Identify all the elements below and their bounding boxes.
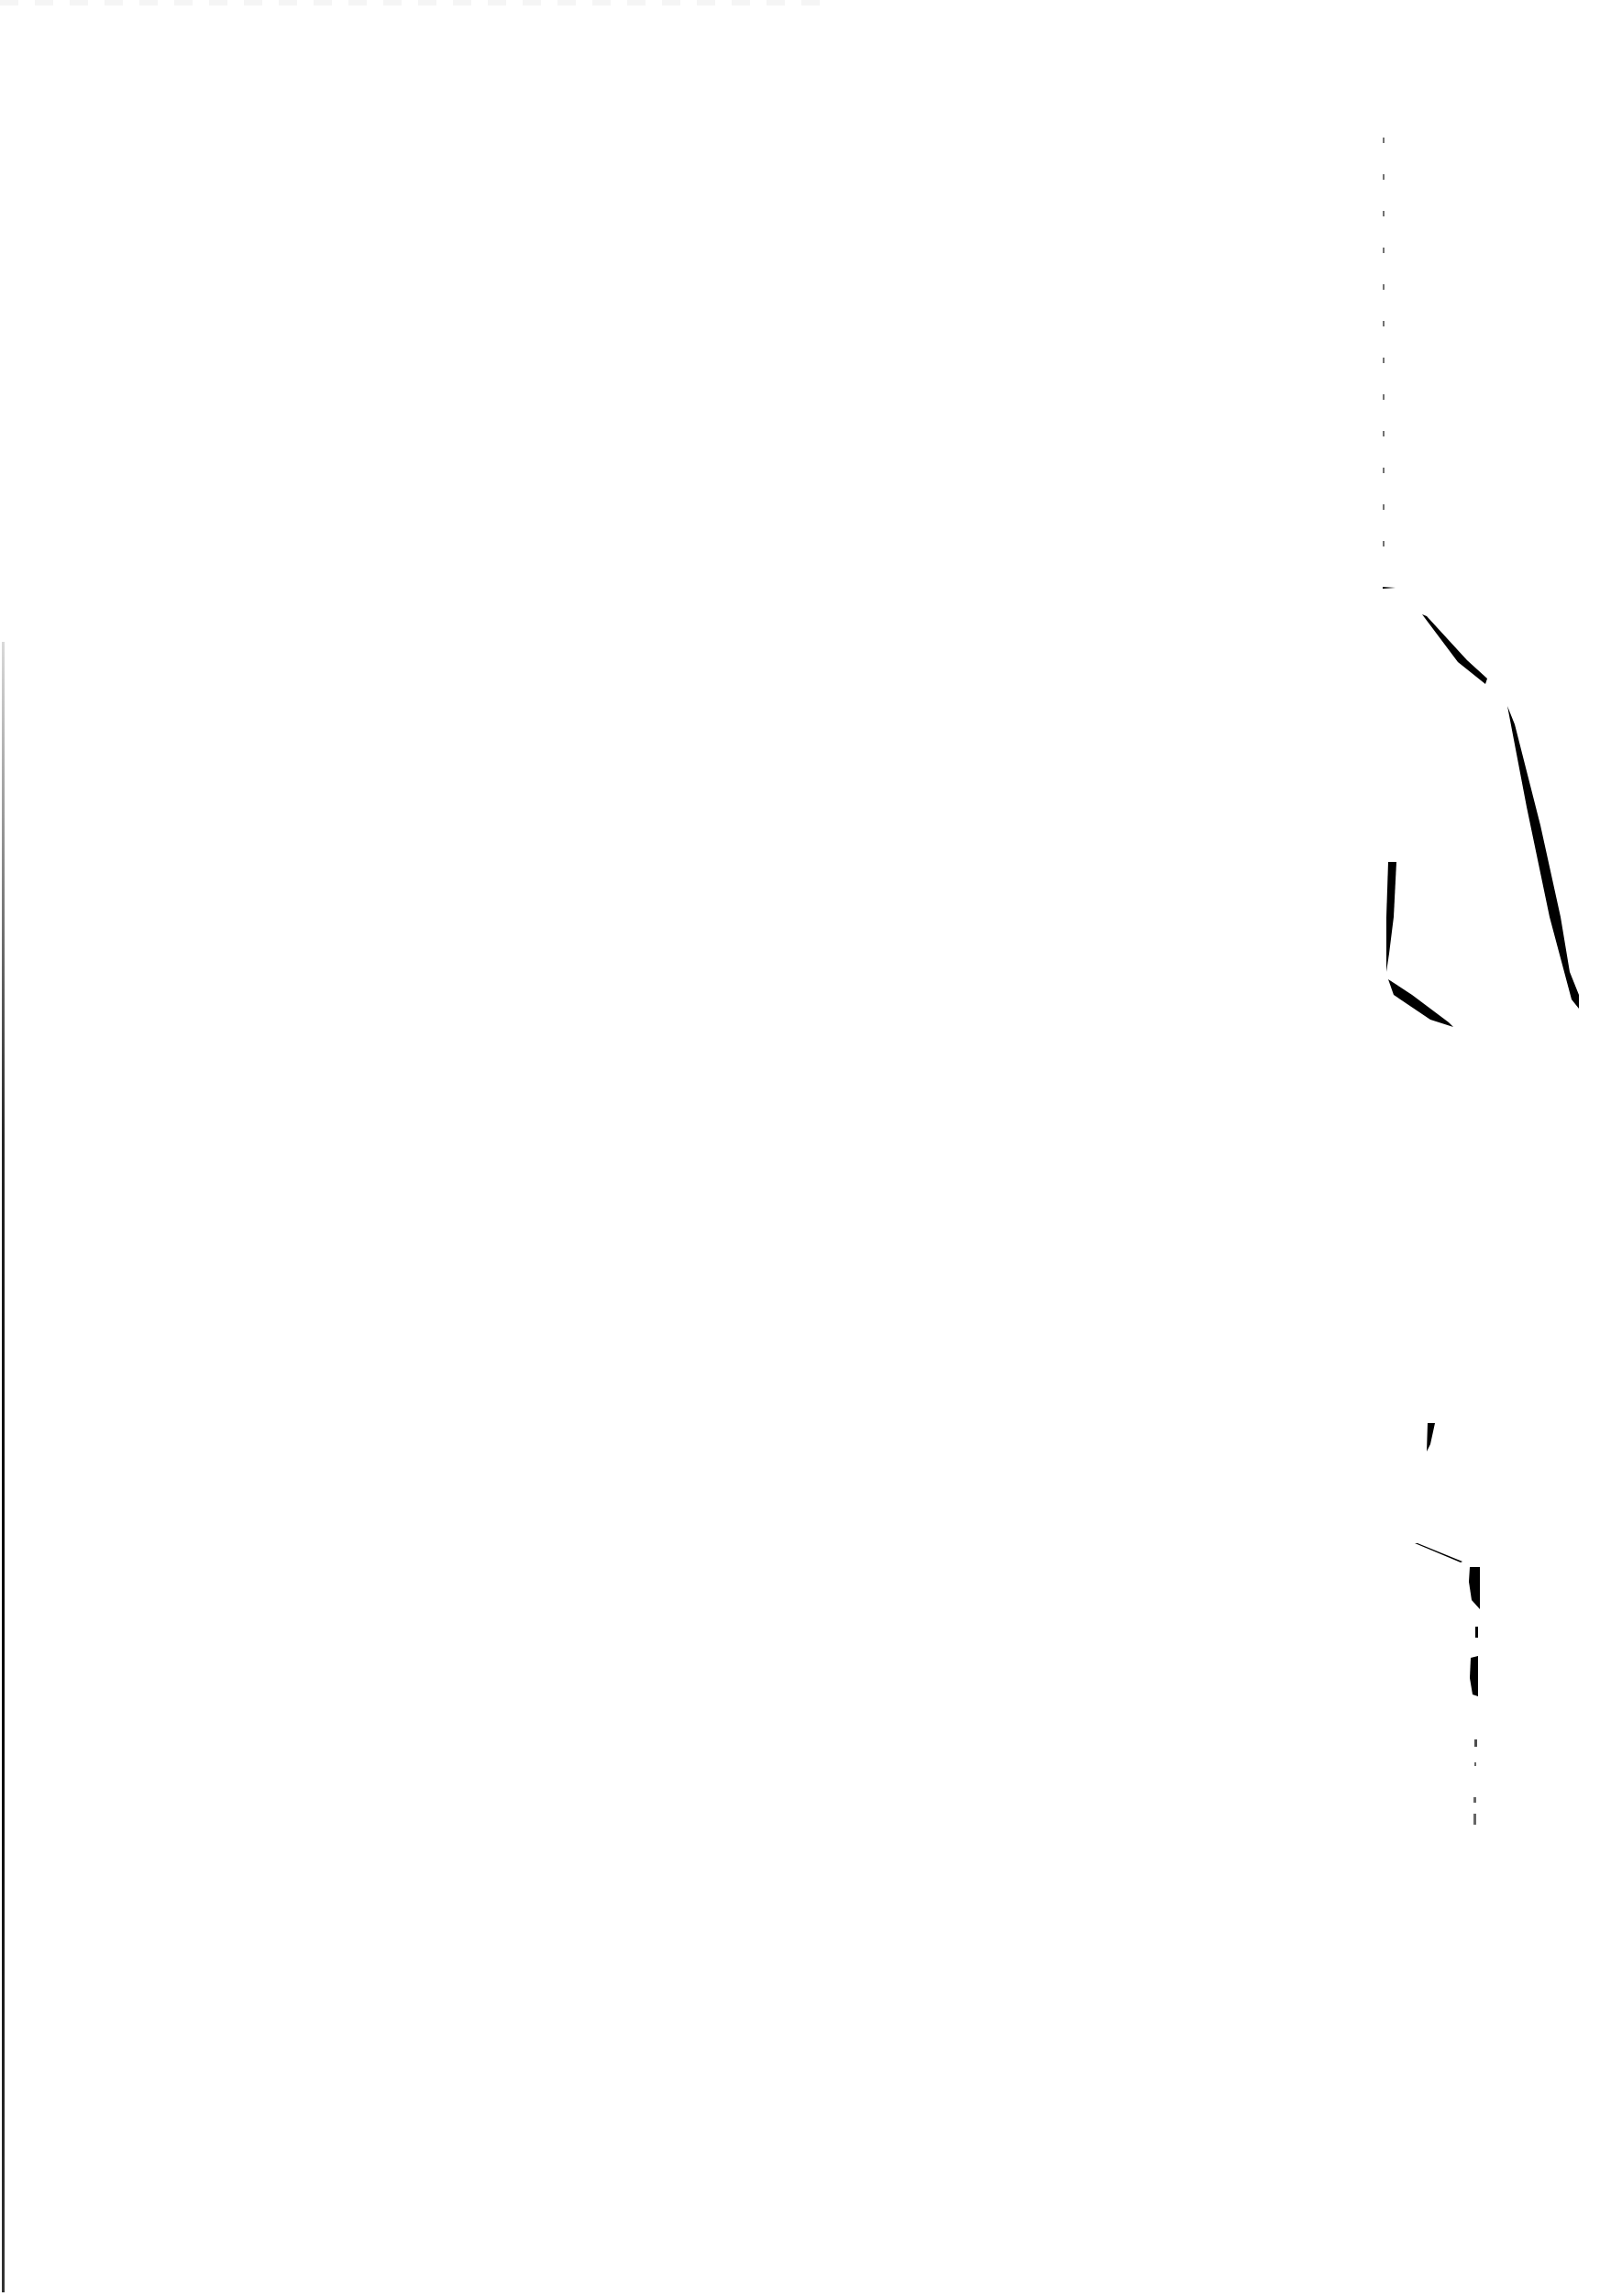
right-torn-edge-artifacts (0, 0, 1611, 2296)
scanned-blank-page (0, 0, 1611, 2296)
